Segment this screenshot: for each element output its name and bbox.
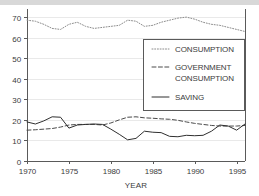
y-tick-label-70: 70 (12, 14, 21, 23)
economic-indicators-line-chart: 010203040506070 197019751980198519901995… (0, 0, 259, 196)
x-tick-label-1990: 1990 (187, 167, 205, 176)
series-line-government-consumption (27, 117, 245, 130)
x-tick-label-1980: 1980 (103, 167, 121, 176)
series-line-consumption (27, 17, 245, 31)
x-tick-label-1975: 1975 (61, 167, 79, 176)
legend-label-saving: SAVING (175, 93, 204, 102)
y-tick-label-30: 30 (12, 96, 21, 105)
chart-figure: 010203040506070 197019751980198519901995… (0, 0, 259, 196)
x-tick-label-1995: 1995 (229, 167, 247, 176)
x-axis-ticks-group: 197019751980198519901995 (19, 161, 247, 176)
x-tick-label-1985: 1985 (145, 167, 163, 176)
legend-label-government-consumption-line2: CONSUMPTION (175, 74, 234, 83)
legend-label-consumption: CONSUMPTION (175, 45, 234, 54)
y-tick-label-50: 50 (12, 55, 21, 64)
y-tick-label-10: 10 (12, 137, 21, 146)
legend-label-government-consumption-line1: GOVERNMENT (175, 63, 232, 72)
x-tick-label-1970: 1970 (19, 167, 37, 176)
y-tick-label-20: 20 (12, 117, 21, 126)
y-tick-label-0: 0 (17, 158, 22, 167)
x-axis-title: YEAR (125, 181, 148, 190)
y-tick-label-40: 40 (12, 76, 21, 85)
chart-legend: CONSUMPTIONGOVERNMENTCONSUMPTIONSAVING (144, 40, 245, 111)
y-axis-ticks-group: 010203040506070 (12, 14, 27, 167)
y-tick-label-60: 60 (12, 35, 21, 44)
